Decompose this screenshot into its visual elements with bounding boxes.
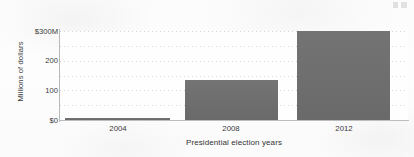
y-axis-tick-label: 100 bbox=[32, 87, 58, 95]
bar-chart: Millions of dollars $300M 200 100 $0 200… bbox=[0, 0, 414, 157]
y-axis-title: Millions of dollars bbox=[14, 24, 26, 118]
x-axis-tick-label-2004: 2004 bbox=[82, 124, 154, 133]
plot-area bbox=[60, 31, 408, 120]
x-axis-tick-label-2012: 2012 bbox=[308, 124, 380, 133]
bar-2012 bbox=[297, 31, 390, 120]
x-axis-tick-label-2008: 2008 bbox=[195, 124, 267, 133]
y-axis-tick-label: $300M bbox=[32, 28, 58, 36]
y-axis-tick-labels: $300M 200 100 $0 bbox=[30, 0, 58, 157]
y-axis-tick-label: 200 bbox=[32, 57, 58, 65]
x-axis-line bbox=[59, 120, 409, 121]
y-axis-title-text: Millions of dollars bbox=[16, 41, 25, 101]
bar-2008 bbox=[185, 80, 278, 120]
x-axis-tick-labels: 2004 2008 2012 bbox=[60, 124, 408, 136]
y-axis-tick-label: $0 bbox=[32, 117, 58, 125]
x-axis-title: Presidential election years bbox=[60, 138, 408, 147]
